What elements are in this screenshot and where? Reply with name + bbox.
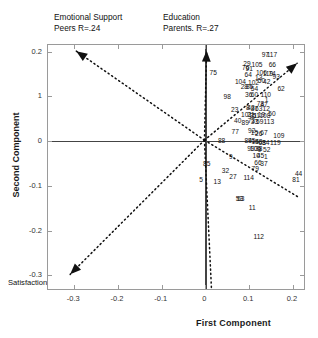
data-point-label: 42: [263, 78, 270, 85]
data-point-label: 9: [229, 154, 233, 161]
x-tick: [293, 285, 294, 289]
x-tick-label: -0.1: [154, 294, 167, 303]
data-point-label: 62: [277, 86, 284, 93]
zero-vertical-axis: [205, 45, 206, 289]
data-point-label: 88: [218, 138, 225, 145]
x-tick: [162, 285, 163, 289]
data-point-label: 75: [210, 70, 217, 77]
y-tick: [300, 52, 304, 53]
x-tick: [162, 45, 163, 49]
y-tick: [300, 96, 304, 97]
data-point-label: 13: [214, 179, 221, 186]
data-point-label: 67: [260, 129, 267, 136]
y-tick: [48, 141, 52, 142]
x-tick: [74, 285, 75, 289]
data-point-label: 98: [224, 94, 231, 101]
x-tick-label: -0.3: [67, 294, 80, 303]
data-point-label: 5: [199, 176, 203, 183]
data-point-label: 60: [251, 92, 258, 99]
x-tick: [293, 45, 294, 49]
y-axis-title: Second Component: [11, 95, 21, 215]
data-point-label: 81: [292, 176, 299, 183]
pca-biplot-figure: Emotional Support Peers R=.24 Education …: [0, 0, 318, 338]
data-point-label: 32: [222, 168, 229, 175]
y-tick: [48, 275, 52, 276]
y-tick: [300, 275, 304, 276]
data-point-label: 113: [264, 119, 275, 126]
x-tick: [249, 285, 250, 289]
data-point-label: 59: [256, 119, 263, 126]
y-tick: [48, 96, 52, 97]
data-point-label: 119: [270, 140, 281, 147]
data-point-label: 50: [268, 111, 275, 118]
data-point-label: 37: [260, 160, 267, 167]
x-tick: [249, 45, 250, 49]
x-tick: [118, 45, 119, 49]
x-tick: [118, 285, 119, 289]
data-point-label: 11: [249, 205, 256, 212]
x-tick-label: 0: [202, 294, 206, 303]
y-tick: [300, 186, 304, 187]
y-tick: [48, 52, 52, 53]
data-point-label: 27: [229, 174, 236, 181]
data-point-label: 66: [269, 62, 276, 69]
y-tick-label: -0.2: [16, 225, 42, 234]
x-tick-label: -0.2: [110, 294, 123, 303]
data-point-label: 34: [262, 139, 269, 146]
data-point-label: 117: [267, 52, 278, 59]
y-tick-label: 1: [16, 91, 42, 100]
x-tick: [74, 45, 75, 49]
x-tick-label: 0.1: [243, 294, 253, 303]
data-point-label: 112: [254, 234, 265, 241]
y-tick: [48, 231, 52, 232]
data-point-label: 105: [252, 61, 263, 68]
x-tick: [205, 45, 206, 49]
y-tick-label: -0.1: [16, 180, 42, 189]
x-axis-title: First Component: [196, 318, 271, 328]
data-point-label: 40: [234, 118, 241, 125]
emotional-support-annotation: Emotional Support Peers R=.24: [54, 12, 122, 33]
y-tick-label: -0.3: [16, 270, 42, 279]
x-tick: [205, 285, 206, 289]
data-point-label: 85: [203, 160, 210, 167]
data-point-label: 114: [243, 175, 254, 182]
y-tick-label: 0: [16, 136, 42, 145]
data-point-label: 63: [237, 196, 244, 203]
data-point-label: 23: [231, 107, 238, 114]
y-tick: [300, 141, 304, 142]
y-tick: [48, 186, 52, 187]
y-tick: [300, 231, 304, 232]
plot-area: 9711729105667691756410611974931350421041…: [47, 44, 305, 290]
y-tick-label: 0.2: [16, 46, 42, 55]
x-tick-label: 0.2: [287, 294, 297, 303]
data-point-label: 77: [231, 128, 238, 135]
data-point-label: 93: [273, 74, 280, 81]
data-point-label: 79: [252, 166, 259, 173]
education-parents-annotation: Education Parents. R=.27: [163, 12, 219, 33]
